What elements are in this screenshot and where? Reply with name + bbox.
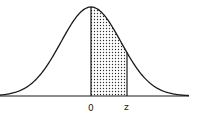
z-tick-label: z <box>124 102 129 112</box>
shaded-area <box>91 7 127 96</box>
normal-curve-chart: 0 z <box>0 0 199 117</box>
zero-tick-label: 0 <box>88 103 94 113</box>
